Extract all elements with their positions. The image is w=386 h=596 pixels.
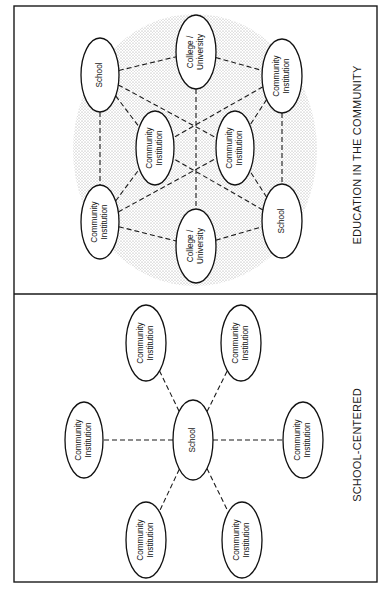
- node-label: Community: [231, 321, 240, 363]
- node-ci-top-left: CommunityInstitution: [126, 305, 166, 381]
- node-ci-inner-right: CommunityInstitution: [216, 111, 254, 185]
- node-ci-left: CommunityInstitution: [65, 402, 103, 478]
- node-label: Community: [225, 126, 234, 168]
- node-label: Institution: [84, 422, 93, 457]
- node-label: Community: [272, 54, 281, 96]
- node-label: Institution: [100, 204, 109, 239]
- node-ci-tr: CommunityInstitution: [262, 39, 302, 113]
- node-ci-inner-left: CommunityInstitution: [136, 111, 174, 185]
- node-label: School: [277, 208, 286, 233]
- caption-education-in-the-community: EDUCATION IN THE COMMUNITY: [351, 65, 363, 244]
- connector-school_center-ci_top_right: [207, 371, 227, 412]
- node-school-center: School: [173, 400, 213, 480]
- node-label: Community: [232, 518, 241, 560]
- node-ci-bl: CommunityInstitution: [81, 185, 119, 259]
- node-label: School: [188, 427, 197, 452]
- node-school-tl: School: [81, 38, 119, 112]
- education-models-diagram: SchoolCollege /UniversityCommunityInstit…: [0, 0, 386, 596]
- connector-school_center-ci_bottom_right: [207, 469, 228, 513]
- node-label: Community: [90, 200, 99, 242]
- node-label: Institution: [303, 422, 312, 457]
- node-school-br: School: [262, 184, 302, 258]
- connector-school_center-ci_bottom_left: [159, 469, 179, 512]
- node-label: University: [196, 33, 205, 70]
- node-label: College /: [186, 229, 195, 262]
- caption-school-centered: SCHOOL-CENTERED: [351, 388, 363, 502]
- connector-school_center-ci_top_left: [160, 371, 180, 411]
- node-label: Institution: [242, 522, 251, 557]
- node-ci-bottom-left: CommunityInstitution: [126, 502, 166, 578]
- node-label: Institution: [235, 130, 244, 165]
- node-label: Institution: [146, 325, 155, 360]
- node-ci-right: CommunityInstitution: [283, 402, 323, 478]
- node-college-bottom: College /University: [176, 209, 216, 283]
- node-ci-bottom-right: CommunityInstitution: [222, 502, 262, 578]
- node-label: Community: [293, 418, 302, 460]
- school-centered-nodes: SchoolCommunityInstitutionCommunityInsti…: [65, 305, 323, 578]
- node-label: Community: [136, 321, 145, 363]
- node-label: Community: [74, 418, 83, 460]
- node-label: Institution: [282, 58, 291, 93]
- node-label: School: [95, 62, 104, 87]
- node-label: Institution: [241, 325, 250, 360]
- node-ci-top-right: CommunityInstitution: [221, 305, 261, 381]
- node-label: Community: [145, 126, 154, 168]
- node-label: Institution: [146, 522, 155, 557]
- node-label: College /: [186, 35, 195, 68]
- node-label: Community: [136, 518, 145, 560]
- node-label: Institution: [155, 130, 164, 165]
- node-college-top: College /University: [176, 15, 216, 89]
- node-label: University: [196, 227, 205, 264]
